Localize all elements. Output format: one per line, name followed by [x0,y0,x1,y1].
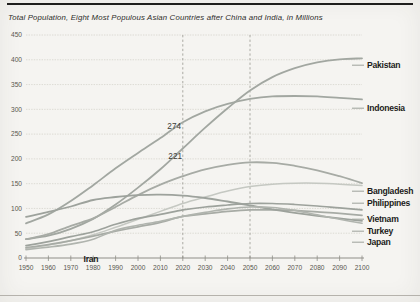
y-tick-label-350: 350 [11,81,22,88]
series-label-pakistan: Pakistan [367,60,400,70]
x-tick-label-1960: 1960 [41,264,56,271]
population-line-chart: Total Population, Eight Most Populous As… [0,0,420,302]
x-tick-label-2090: 2090 [332,264,347,271]
x-tick-label-1970: 1970 [63,264,78,271]
y-tick-label-0: 0 [18,254,22,261]
y-tick-label-400: 400 [11,56,22,63]
annotation-274: 274 [167,122,181,131]
reference-lines-layer [183,35,250,258]
y-tick-label-250: 250 [11,130,22,137]
x-tick-label-2050: 2050 [243,264,258,271]
magazine-chart-page: Total Population, Eight Most Populous As… [0,0,420,302]
axis-layer [24,256,364,262]
y-tick-label-100: 100 [11,205,22,212]
series-line-iran [26,207,362,250]
series-label-philippines: Philippines [367,198,411,208]
x-tick-label-2020: 2020 [175,264,190,271]
series-label-bangladesh: Bangladesh [367,186,413,196]
x-tick-label-2010: 2010 [153,264,168,271]
bottom-rule [0,295,420,296]
y-tick-label-300: 300 [11,106,22,113]
labels-layer: 0501001502002503003504004501950196019701… [11,31,413,271]
x-tick-label-2040: 2040 [220,264,235,271]
series-label-vietnam: Vietnam [367,214,399,224]
y-tick-label-450: 450 [11,31,22,38]
x-tick-label-2060: 2060 [265,264,280,271]
x-tick-label-1990: 1990 [108,264,123,271]
x-tick-label-2070: 2070 [287,264,302,271]
x-tick-label-2080: 2080 [310,264,325,271]
x-tick-label-1950: 1950 [19,264,34,271]
series-label-turkey: Turkey [367,226,394,236]
x-tick-label-1980: 1980 [86,264,101,271]
x-tick-label-2030: 2030 [198,264,213,271]
series-label-iran: Iran [84,254,99,264]
grid-layer [26,35,362,233]
series-label-indonesia: Indonesia [367,103,405,113]
x-tick-label-2000: 2000 [131,264,146,271]
series-label-japan: Japan [367,237,391,247]
series-lines-layer [26,58,362,249]
x-tick-label-2100: 2100 [355,264,370,271]
y-tick-label-150: 150 [11,180,22,187]
chart-title: Total Population, Eight Most Populous As… [8,13,323,22]
y-tick-label-50: 50 [15,230,23,237]
annotation-221: 221 [168,152,182,161]
y-tick-label-200: 200 [11,155,22,162]
